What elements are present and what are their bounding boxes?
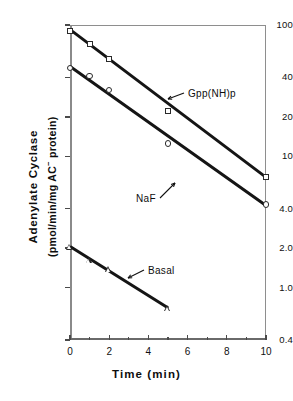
y-axis-title-line1: Adenylate Cyclase [26,62,41,312]
y-tick-label: 20 [232,111,293,122]
y-tick-label: 0.4 [232,334,293,345]
y-tick-label: 1.0 [232,282,293,293]
y-tick-label: 10 [232,150,293,161]
y-tick-label: 4.0 [232,203,293,214]
y-axis-title: Adenylate Cyclase (pmol/min/mg AC− prote… [26,62,60,312]
x-tick-label: 6 [173,346,203,357]
y-axis-units-pre: (pmol/min/mg AC [46,166,58,257]
x-tick-label: 8 [212,346,242,357]
y-tick-label: 2.0 [232,242,293,253]
y-tick-label: 100 [232,19,293,30]
y-axis-units-superscript: − [44,161,53,166]
figure: 0246810 Gpp(NH)pNaFBasal 1004020104.02.0… [0,0,293,401]
y-axis-title-line2: (pmol/min/mg AC− protein) [41,62,60,312]
x-tick-label: 10 [251,346,281,357]
y-tick-label: 40 [232,71,293,82]
x-tick-label: 0 [55,346,85,357]
x-axis-title: Time (min) [0,368,293,380]
y-axis-units-post: protein) [46,117,58,162]
x-tick-label: 4 [133,346,163,357]
x-tick-label: 2 [94,346,124,357]
